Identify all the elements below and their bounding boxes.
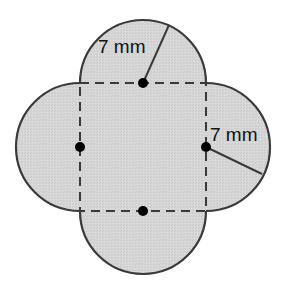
top-radius-label: 7 mm bbox=[98, 36, 146, 57]
top-center-dot bbox=[138, 78, 148, 88]
left-semicircle bbox=[16, 83, 80, 211]
diagram-canvas: 7 mm 7 mm bbox=[0, 0, 282, 302]
left-center-dot bbox=[75, 142, 85, 152]
bottom-semicircle bbox=[80, 211, 206, 274]
bottom-center-dot bbox=[138, 206, 148, 216]
right-semicircle bbox=[206, 83, 270, 211]
right-radius-label: 7 mm bbox=[210, 124, 258, 145]
figure: 7 mm 7 mm bbox=[0, 0, 282, 302]
shape-fill bbox=[16, 20, 270, 274]
